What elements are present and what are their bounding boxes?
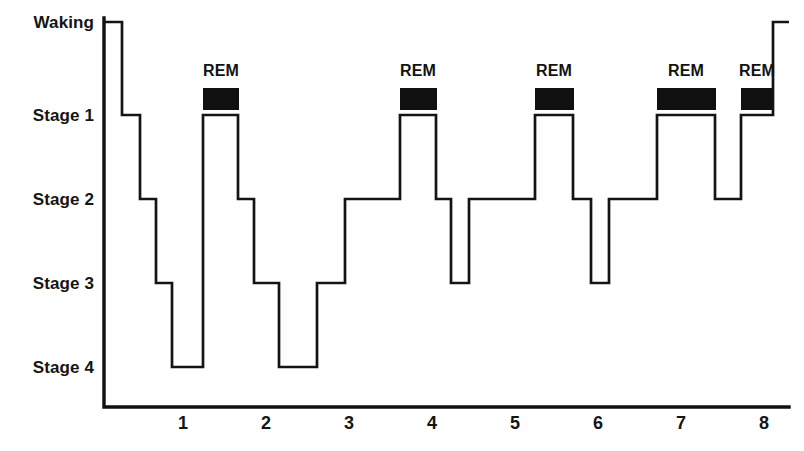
x-tick-label-6: 6 — [585, 413, 611, 434]
rem-label-2: REM — [383, 62, 453, 80]
rem-bar-1 — [203, 88, 239, 110]
hypnogram-figure: Waking Stage 1 Stage 2 Stage 3 Stage 4 R… — [0, 0, 804, 451]
x-tick-label-5: 5 — [502, 413, 528, 434]
x-tick-label-4: 4 — [419, 413, 445, 434]
rem-label-5: REM — [722, 62, 792, 80]
rem-bar-3 — [535, 88, 574, 110]
rem-label-1: REM — [186, 62, 256, 80]
x-tick-label-7: 7 — [668, 413, 694, 434]
rem-label-3: REM — [519, 62, 589, 80]
x-tick-label-1: 1 — [170, 413, 196, 434]
rem-bar-5 — [741, 88, 773, 110]
x-tick-label-2: 2 — [253, 413, 279, 434]
rem-bar-4 — [657, 88, 716, 110]
x-tick-label-8: 8 — [751, 413, 777, 434]
rem-label-4: REM — [651, 62, 721, 80]
rem-bar-2 — [400, 88, 437, 110]
x-tick-label-3: 3 — [336, 413, 362, 434]
